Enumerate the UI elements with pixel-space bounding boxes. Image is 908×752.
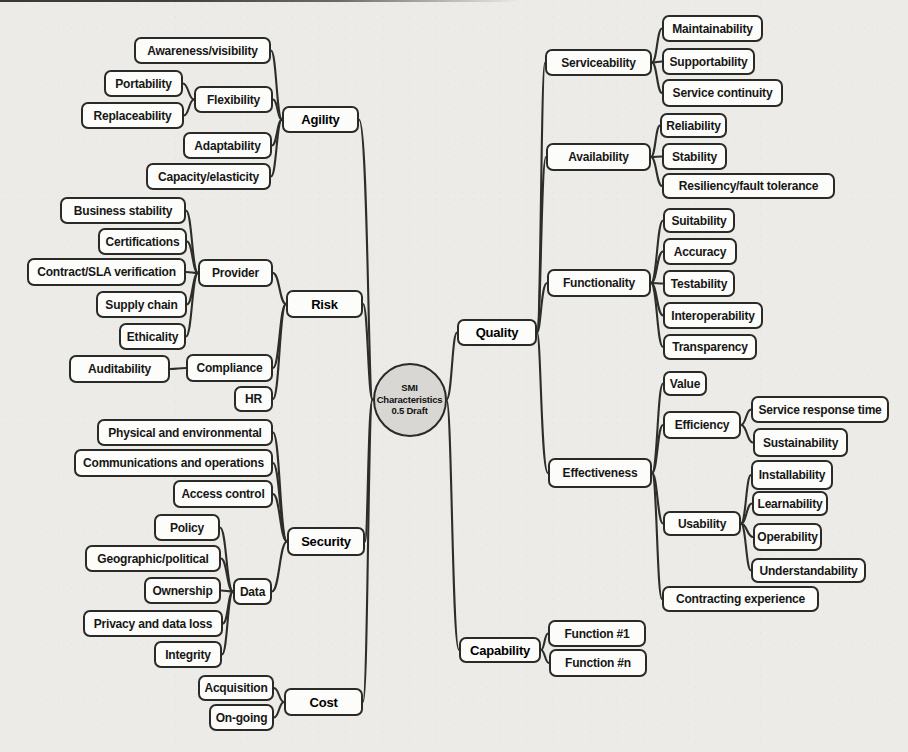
connector-efficiency-to-srt [741,410,751,426]
root-node-smi-characteristics: SMI Characteristics 0.5 Draft [373,363,447,437]
node-reliability: Reliability [660,113,727,138]
node-ongoing: On-going [209,704,274,731]
root-node-line2: Characteristics [377,394,443,406]
node-serviceability: Serviceability [545,49,652,76]
connector-data-to-security [272,542,287,592]
node-operability: Operability [753,523,822,551]
node-srt: Service response time [751,396,889,423]
root-node-line3: 0.5 Draft [391,405,427,417]
node-privacy: Privacy and data loss [83,610,223,637]
connector-capability-to-function-n [541,650,549,663]
node-portability: Portability [104,70,183,97]
connector-portability-to-flexibility [183,84,194,100]
connector-availability-to-resiliency [651,157,662,186]
node-hr: HR [234,386,273,412]
mindmap-page: SMI Characteristics 0.5 Draft AgilityAwa… [0,0,908,752]
node-compliance: Compliance [186,354,273,382]
connector-ongoing-to-cost [274,702,284,718]
node-flexibility: Flexibility [194,86,273,113]
connector-provider-to-risk [273,273,286,304]
node-certifications: Certifications [98,228,187,255]
node-interoperability: Interoperability [663,302,763,329]
connector-serviceability-to-service-continuity [652,63,662,94]
node-learnability: Learnability [752,491,828,516]
node-testability: Testability [663,270,735,297]
node-access-control: Access control [173,480,273,508]
node-data: Data [233,578,272,605]
node-auditability: Auditability [69,355,170,383]
connector-replaceability-to-flexibility [184,100,194,116]
node-security: Security [287,527,365,556]
node-contract-sla: Contract/SLA verification [27,258,186,286]
node-geographic: Geographic/political [85,545,221,572]
node-function-n: Function #n [549,649,647,677]
connector-serviceability-to-maintainability [652,29,662,63]
connector-efficiency-to-sustainability [741,425,753,443]
node-integrity: Integrity [154,641,222,668]
node-physical: Physical and environmental [97,419,273,446]
node-value: Value [663,371,707,396]
connector-center-to-capability [447,400,460,651]
node-adaptability: Adaptability [183,132,272,159]
connector-hr-to-risk [273,304,286,399]
node-risk: Risk [286,290,363,318]
node-replaceability: Replaceability [81,102,184,129]
node-efficiency: Efficiency [663,411,741,439]
node-business-stability: Business stability [60,197,186,224]
node-function-1: Function #1 [548,620,646,647]
node-acquisition: Acquisition [198,675,274,701]
node-resiliency: Resiliency/fault tolerance [662,173,835,199]
node-functionality: Functionality [547,269,651,297]
node-suitability: Suitability [663,208,735,233]
node-accuracy: Accuracy [663,238,737,265]
node-sustainability: Sustainability [753,428,848,457]
node-effectiveness: Effectiveness [548,458,652,488]
node-capability: Capability [459,637,541,663]
node-provider: Provider [198,259,273,287]
node-supply-chain: Supply chain [96,291,187,318]
node-supportability: Supportability [662,48,755,75]
node-stability: Stability [662,143,727,170]
connector-agility-to-center [359,120,373,400]
node-ethicality: Ethicality [119,323,186,350]
connector-availability-to-reliability [651,126,660,158]
connector-auditability-to-compliance [170,368,186,369]
connector-quality-to-effectiveness [537,333,548,474]
node-awareness: Awareness/visibility [134,37,271,64]
node-quality: Quality [457,319,537,346]
connector-physical-to-security [273,433,287,542]
node-policy: Policy [154,514,220,541]
node-service-continuity: Service continuity [662,79,783,107]
node-capacity: Capacity/elasticity [146,163,271,190]
node-ownership: Ownership [144,577,221,604]
node-agility: Agility [282,106,359,133]
node-installability: Installability [751,460,833,490]
root-node-line1: SMI [401,382,417,394]
node-communications: Communications and operations [74,449,273,477]
node-cost: Cost [284,688,363,716]
node-transparency: Transparency [663,334,757,360]
node-understandability: Understandability [751,558,866,583]
connector-capacity-to-agility [271,120,282,177]
node-availability: Availability [546,143,651,171]
node-maintainability: Maintainability [662,15,763,42]
node-contracting: Contracting experience [662,586,819,612]
connector-center-to-quality [447,333,458,400]
connector-capability-to-function-1 [541,634,548,651]
scan-artifact-line [0,0,520,2]
connector-acquisition-to-cost [274,688,284,702]
node-usability: Usability [663,511,741,536]
